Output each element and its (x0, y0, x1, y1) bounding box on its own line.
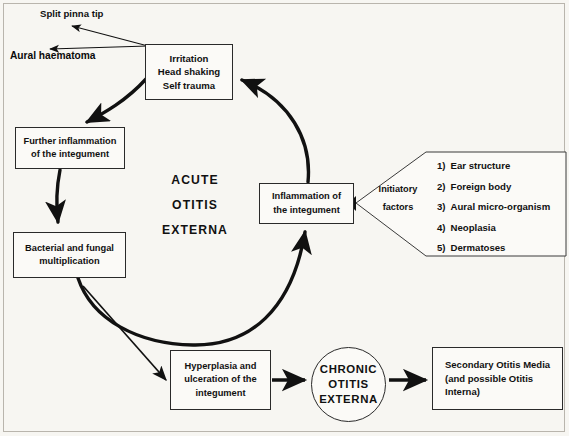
diagram-page: Irritation Head shaking Self trauma Furt… (0, 0, 569, 436)
node-chronic-line-3: EXTERNA (319, 392, 378, 407)
node-irritation-line-2: Head shaking (158, 65, 220, 79)
node-further-inflammation[interactable]: Further inflammation of the integument (15, 127, 125, 169)
factor-item: 5) Dermatoses (437, 238, 563, 259)
factor-text: Foreign body (451, 182, 512, 192)
node-bacterial-fungal-multiplication[interactable]: Bacterial and fungal multiplication (13, 232, 126, 278)
factor-text: Neoplasia (451, 223, 496, 233)
arc-inflammation-to-irritation (242, 80, 308, 182)
node-inflammation-line-1: Inflammation of (272, 190, 341, 203)
node-chronic-line-1: CHRONIC (320, 362, 377, 377)
node-chronic-otitis-externa[interactable]: CHRONIC OTITIS EXTERNA (311, 347, 386, 422)
node-inflammation-line-2: the integument (273, 204, 340, 217)
node-inflammation-of-integument[interactable]: Inflammation of the integument (259, 183, 354, 224)
node-further-line-1: Further inflammation (24, 135, 117, 148)
arc-further-to-bacterial (57, 170, 60, 222)
node-hyperplasia-ulceration[interactable]: Hyperplasia and ulceration of the integu… (170, 350, 271, 410)
node-irritation-line-1: Irritation (170, 52, 209, 66)
cycle-center-line-3: EXTERNA (150, 218, 240, 243)
arrow-cycle-to-hyperplasia (83, 286, 166, 380)
factor-text: Dermatoses (451, 243, 506, 253)
label-aural-haematoma: Aural haematoma (10, 50, 96, 61)
initiatory-line-1: Initiatory (369, 181, 427, 199)
label-initiatory-factors: Initiatory factors (369, 181, 427, 217)
factor-number: 5) (437, 243, 446, 253)
factor-number: 2) (437, 182, 446, 192)
factor-text: Ear structure (451, 161, 511, 171)
initiatory-factors-list: 1) Ear structure 2) Foreign body 3) Aura… (437, 156, 563, 259)
cycle-center-line-1: ACUTE (150, 168, 240, 193)
factor-number: 4) (437, 223, 446, 233)
node-secondary-line-1: Secondary Otitis Media (445, 358, 550, 371)
node-secondary-line-2: (and possible Otitis (445, 372, 533, 385)
cycle-center-line-2: OTITIS (150, 193, 240, 218)
node-hyperplasia-line-1: Hyperplasia and (185, 360, 257, 373)
node-bacterial-line-1: Bacterial and fungal (25, 242, 114, 255)
initiatory-line-2: factors (369, 199, 427, 217)
arrow-to-aural-haematoma (50, 46, 148, 49)
node-irritation-line-3: Self trauma (163, 79, 215, 93)
factor-item: 3) Aural micro-organism (437, 197, 563, 218)
factor-number: 1) (437, 161, 446, 171)
arrow-to-split-pinna (72, 26, 148, 46)
cycle-center-label: ACUTE OTITIS EXTERNA (150, 168, 240, 243)
label-split-pinna-tip: Split pinna tip (40, 8, 103, 19)
factor-item: 4) Neoplasia (437, 218, 563, 239)
factor-item: 2) Foreign body (437, 177, 563, 198)
node-irritation[interactable]: Irritation Head shaking Self trauma (145, 44, 233, 100)
node-bacterial-line-2: multiplication (39, 255, 99, 268)
node-secondary-line-3: Interna) (445, 385, 480, 398)
node-hyperplasia-line-2: ulceration of the (184, 373, 256, 386)
factor-text: Aural micro-organism (451, 202, 551, 212)
arc-irritation-to-further (87, 79, 146, 122)
node-secondary-otitis-media[interactable]: Secondary Otitis Media (and possible Oti… (432, 347, 563, 410)
factor-number: 3) (437, 202, 446, 212)
factor-item: 1) Ear structure (437, 156, 563, 177)
node-further-line-2: of the integument (31, 148, 109, 161)
node-hyperplasia-line-3: integument (195, 387, 245, 400)
node-chronic-line-2: OTITIS (328, 377, 368, 392)
